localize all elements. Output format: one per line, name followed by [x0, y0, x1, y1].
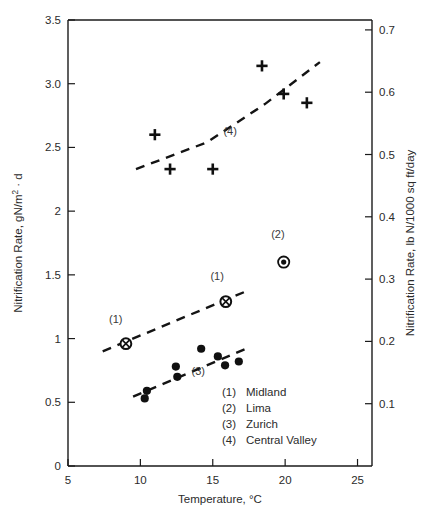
- data-point-central-valley: [278, 88, 289, 99]
- filled-circle-marker-icon: [143, 387, 151, 395]
- y-axis-left-ticks: 00.511.522.53.03.5: [45, 14, 75, 472]
- y-axis-left-tick-label: 1.5: [45, 269, 61, 281]
- x-axis-tick-label: 5: [65, 474, 71, 486]
- data-point-midland: [121, 338, 132, 349]
- y-axis-right-tick-label: 0.7: [379, 24, 395, 36]
- y-axis-left-tick-label: 3.5: [45, 14, 61, 26]
- y-axis-left-tick-label: 0.5: [45, 396, 61, 408]
- filled-circle-marker-icon: [197, 345, 205, 353]
- filled-circle-marker-icon: [172, 363, 180, 371]
- x-axis-tick-label: 10: [134, 474, 147, 486]
- x-axis-tick-label: 15: [206, 474, 219, 486]
- nitrification-rate-scatter-chart: 00.511.522.53.03.5 0.10.20.30.40.50.60.7…: [0, 0, 427, 521]
- y-axis-left-tick-label: 2.5: [45, 141, 61, 153]
- y-axis-right-ticks: 0.10.20.30.40.50.60.7: [365, 24, 396, 410]
- data-point-zurich: [141, 394, 149, 402]
- legend-item-label: Midland: [246, 386, 286, 398]
- x-axis-tick-label: 25: [351, 474, 364, 486]
- y-axis-right-tick-label: 0.1: [379, 398, 395, 410]
- x-axis-ticks: 510152025: [65, 459, 364, 486]
- trend-line-central-valley: [136, 62, 320, 169]
- legend-item: (3)Zurich: [222, 418, 278, 430]
- series-lima: [278, 257, 289, 268]
- legend-item: (2)Lima: [222, 402, 272, 414]
- legend-item: (1)Midland: [222, 386, 286, 398]
- bullseye-marker-core-icon: [281, 260, 286, 265]
- filled-circle-marker-icon: [173, 373, 181, 381]
- data-point-midland: [220, 296, 231, 307]
- legend-item-label: Zurich: [246, 418, 278, 430]
- data-point-central-valley: [164, 163, 175, 174]
- y-axis-left-tick-label: 3.0: [45, 78, 61, 90]
- y-axis-right-tick-label: 0.2: [379, 335, 395, 347]
- series-annotation-zurich: (3): [192, 365, 205, 377]
- y-axis-left-tick-label: 2: [55, 205, 61, 217]
- series-annotations-group: (1)(1)(2)(3)(4): [109, 125, 285, 377]
- y-axis-left-tick-label: 0: [55, 460, 61, 472]
- filled-circle-marker-icon: [141, 394, 149, 402]
- legend-item-tag: (3): [222, 418, 236, 430]
- filled-circle-marker-icon: [235, 357, 243, 365]
- data-point-zurich: [235, 357, 243, 365]
- series-annotation-midland: (1): [109, 313, 122, 325]
- series-midland: [121, 296, 232, 349]
- data-point-central-valley: [207, 163, 218, 174]
- legend-item: (4)Central Valley: [222, 434, 317, 446]
- x-axis-title: Temperature, °C: [178, 493, 262, 505]
- data-point-zurich: [221, 361, 229, 369]
- chart-legend: (1)Midland(2)Lima(3)Zurich(4)Central Val…: [222, 386, 317, 446]
- data-point-central-valley: [149, 129, 160, 140]
- data-point-zurich: [172, 363, 180, 371]
- y-axis-right-tick-label: 0.4: [379, 211, 396, 223]
- data-point-zurich: [197, 345, 205, 353]
- data-point-central-valley: [256, 60, 267, 71]
- legend-item-tag: (4): [222, 434, 236, 446]
- data-point-zurich: [214, 352, 222, 360]
- series-annotation-lima: (2): [271, 228, 284, 240]
- plot-axes-frame: [68, 20, 372, 466]
- data-point-central-valley: [301, 97, 312, 108]
- y-axis-right-tick-label: 0.3: [379, 273, 395, 285]
- y-axis-right-tick-label: 0.6: [379, 86, 395, 98]
- series-annotation-midland: (1): [210, 270, 223, 282]
- legend-item-tag: (1): [222, 386, 236, 398]
- y-axis-left-title: Nitrification Rate, gN/m2 · d: [11, 173, 25, 312]
- data-point-zurich: [143, 387, 151, 395]
- x-axis-tick-label: 20: [279, 474, 292, 486]
- legend-item-label: Lima: [246, 402, 272, 414]
- series-annotation-central-valley: (4): [223, 125, 236, 137]
- data-point-zurich: [173, 373, 181, 381]
- legend-item-label: Central Valley: [246, 434, 317, 446]
- filled-circle-marker-icon: [221, 361, 229, 369]
- series-central-valley: [149, 60, 312, 174]
- filled-circle-marker-icon: [214, 352, 222, 360]
- data-point-lima: [278, 257, 289, 268]
- trend-lines-group: [103, 62, 320, 397]
- chart-figure: 00.511.522.53.03.5 0.10.20.30.40.50.60.7…: [0, 0, 427, 521]
- y-axis-left-tick-label: 1: [55, 333, 61, 345]
- y-axis-right-title: Nitrification Rate, lb N/1000 sq ft/day: [404, 149, 416, 336]
- y-axis-right-tick-label: 0.5: [379, 149, 395, 161]
- legend-item-tag: (2): [222, 402, 236, 414]
